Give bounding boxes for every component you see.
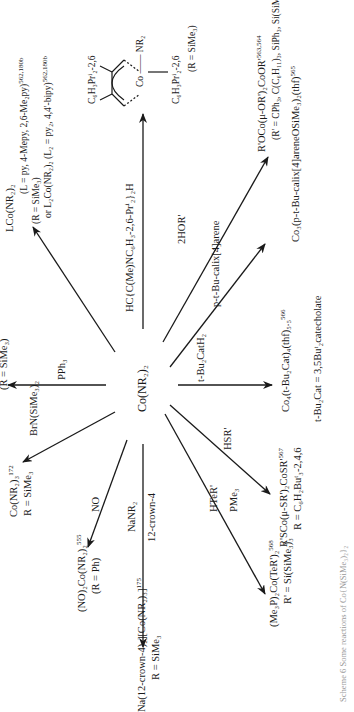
product-thiol: R'SCo(μ-SR')₂CoSR'567 bbox=[278, 448, 290, 547]
scheme-caption: Scheme 6 Some reactions of Co{N(SiMe₃)₂}… bbox=[338, 546, 348, 702]
note-alkoxide: (R' = CPh₃, C(C₆H₁₁)₃, SiPh₃, Si(SiMe₃)₃… bbox=[270, 0, 282, 140]
note-pyridine-ligands: (L = py, 4-Mepy, 2,6-Me₂py)562,180b bbox=[18, 58, 30, 195]
product-nacnac-co: Co —— NR₂ bbox=[134, 36, 146, 87]
product-brn: Co(NR₂)₃172 bbox=[8, 465, 20, 517]
note-nanr2: R = SiMe₃ bbox=[150, 635, 162, 680]
reagent-tellurol: HTeR' bbox=[208, 485, 220, 512]
center-compound: Co(NR₂)₂ bbox=[136, 365, 148, 412]
product-alkoxide: R'OCo(μ-OR')₂CoOR'563,564 bbox=[256, 36, 268, 152]
reagent-pph3: PPh₃ bbox=[56, 359, 68, 380]
note-tellurol: R' = Si(SiMe₃)₃ bbox=[282, 538, 294, 604]
reagent-nitrosyl: NO bbox=[90, 497, 102, 512]
product-nitrosyl: (NO)₂Co(NR₂)₂555 bbox=[76, 535, 88, 612]
product-nacnac-aryl-1: C₆H₃Prⁱ₂-2,6 bbox=[86, 55, 98, 104]
reaction-scheme: Co(NR₂)₂ PPh₃ (R = SiMe₃) LCo(NR₂)₂ (L =… bbox=[0, 0, 354, 712]
reagent-catechol: t-Bu₂CatH₂ bbox=[195, 334, 207, 382]
note-catechol: t-Bu₂Cat = 3,5Buᵗ₂catecholate bbox=[312, 296, 324, 422]
product-pyridine: LCo(NR₂)₂ bbox=[4, 184, 16, 232]
reagent-alkoxide: 2HOR' bbox=[176, 215, 188, 244]
note-pyridine-r: (R = SiMe₃) bbox=[30, 177, 42, 224]
reagent-calixarene: p-t-Bu-calix[4]arene bbox=[210, 221, 222, 307]
reagent-nanr2: NaNR₂ bbox=[126, 502, 138, 533]
reagent-pme3: PMe₃ bbox=[228, 489, 240, 513]
arrow-pyridine bbox=[33, 227, 115, 352]
reagent-crown: 12-crown-4 bbox=[146, 493, 158, 542]
note-brn: R = SiMe₃ bbox=[22, 471, 34, 516]
note-pyridine-bipy: or L₂Co(NR₂)₂ (L₂ = py₂, 4,4'-bipy)562,1… bbox=[42, 56, 54, 218]
note-nacnac: (R = SiMe₃) bbox=[186, 25, 198, 72]
reagent-thiol: HSR' bbox=[222, 428, 234, 450]
note-nitrosyl: (R = Ph) bbox=[90, 558, 102, 594]
note-thiol: R = C₆H₂Buᵗ₃-2,4,6 bbox=[292, 447, 304, 530]
product-nacnac-aryl-2: C₆H₃Prⁱ₂-2,6 bbox=[170, 55, 182, 104]
product-tellurol: (Me₃P)₂Co(TeR')₂568 bbox=[268, 540, 280, 627]
product-nanr2: Na(12-crown-4)₂][Co(NR₂)₃]175 bbox=[136, 578, 148, 712]
product-catechol: Co₄(t-Bu₂Cat)₄(thf)₅.₅566 bbox=[280, 309, 292, 412]
product-calixarene: Co₃(p-t-Bu-calix[4]areneOSiMe₃)₂(thf)565 bbox=[290, 66, 302, 242]
arrow-nitrosyl bbox=[88, 440, 127, 547]
reagent-brn: BrN(SiMe₃)₂ bbox=[28, 381, 40, 436]
note-pph3: (R = SiMe₃) bbox=[0, 338, 10, 390]
reagent-nacnac: HC{C(Me)NC₆H₃-2,6-Prⁱ₂}₂H bbox=[124, 183, 136, 312]
